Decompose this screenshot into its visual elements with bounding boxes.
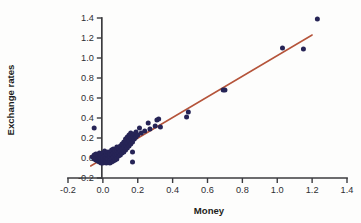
- data-point: [147, 127, 152, 132]
- data-point: [186, 110, 191, 115]
- data-point: [146, 121, 151, 126]
- data-point: [130, 160, 135, 165]
- y-tick-label: 0.8: [81, 73, 94, 83]
- y-tick-label: 0.4: [81, 113, 94, 123]
- data-point: [280, 46, 285, 51]
- chart-canvas: -0.20.00.20.40.60.81.01.21.4 -0.20.00.20…: [0, 0, 361, 223]
- data-point: [222, 88, 227, 93]
- x-tick-label: 1.4: [341, 185, 354, 195]
- data-point: [301, 47, 306, 52]
- y-tick-label: 0.2: [81, 133, 94, 143]
- data-points-group: [90, 17, 320, 166]
- data-point: [142, 129, 147, 134]
- data-point: [153, 124, 158, 129]
- x-tick-label: 1.0: [271, 185, 284, 195]
- y-tick-label: 1.2: [81, 33, 94, 43]
- x-tick-label: -0.2: [60, 185, 76, 195]
- x-tick-label: 0.6: [201, 185, 214, 195]
- data-point: [137, 126, 142, 131]
- data-point: [158, 125, 163, 130]
- y-axis-title: Exchange rates: [5, 65, 16, 136]
- y-tick-label: 1.0: [81, 53, 94, 63]
- x-tick-label: 1.2: [306, 185, 319, 195]
- data-point: [184, 115, 189, 120]
- data-point: [92, 126, 97, 131]
- y-tick-label: 0.6: [81, 93, 94, 103]
- scatter-chart-figure: -0.20.00.20.40.60.81.01.21.4 -0.20.00.20…: [0, 0, 361, 223]
- data-point: [156, 117, 161, 122]
- x-tick-label: 0.0: [96, 185, 109, 195]
- x-tick-label: 0.8: [236, 185, 249, 195]
- y-tick-label: 1.4: [81, 13, 94, 23]
- y-tick-label: -0.2: [78, 173, 94, 183]
- x-axis-title: Money: [194, 205, 225, 216]
- data-point: [130, 150, 135, 155]
- x-axis-ticks: -0.20.00.20.40.60.81.01.21.4: [60, 178, 353, 195]
- data-point: [315, 17, 320, 22]
- x-tick-label: 0.4: [166, 185, 179, 195]
- x-tick-label: 0.2: [131, 185, 144, 195]
